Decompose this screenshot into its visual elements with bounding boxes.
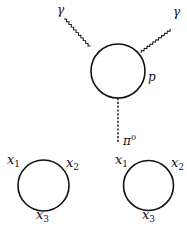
- vertex-label-x2: x2: [66, 155, 79, 172]
- vertex-label-x3: x3: [36, 207, 49, 224]
- feynman-diagram-canvas: γ γ p π0 x1 x2 x3 x1 x2 x3: [0, 0, 187, 228]
- pion-label: π0: [122, 133, 136, 148]
- bottom-right-loop: [124, 161, 174, 211]
- bottom-left-loop: [18, 160, 69, 211]
- loop-momentum-label: p: [148, 70, 156, 84]
- photon-left-line: [64, 16, 91, 49]
- photon-right-line: [140, 29, 172, 53]
- photon-right-label: γ: [173, 5, 181, 19]
- vertex-label-x2: x2: [171, 155, 184, 172]
- top-fermion-loop: [91, 44, 145, 98]
- vertex-label-x1: x1: [7, 152, 20, 169]
- vertex-label-x1: x1: [115, 152, 128, 169]
- photon-left-label: γ: [57, 3, 65, 17]
